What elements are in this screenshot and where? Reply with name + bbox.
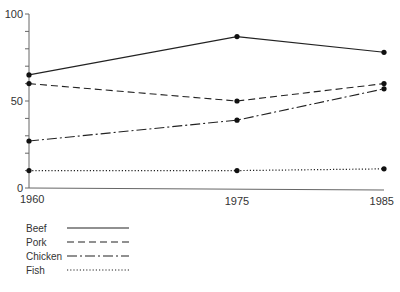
y-tick-label: 100	[5, 8, 23, 20]
legend-label-chicken: Chicken	[26, 251, 62, 262]
data-point	[26, 138, 31, 143]
legend-label-fish: Fish	[26, 265, 45, 276]
data-point	[234, 34, 239, 39]
legend-label-pork: Pork	[26, 237, 48, 248]
x-axis	[29, 188, 384, 190]
y-tick-label: 50	[11, 95, 23, 107]
data-point	[26, 81, 31, 86]
x-tick-label: 1960	[20, 193, 44, 205]
series-line-pork	[29, 84, 384, 101]
series-line-fish	[29, 169, 384, 171]
data-point	[26, 72, 31, 77]
data-point	[381, 86, 386, 91]
x-tick-label: 1975	[225, 195, 249, 207]
data-point	[381, 50, 386, 55]
line-chart: 050100196019751985BeefPorkChickenFish	[0, 0, 400, 292]
legend-label-beef: Beef	[26, 223, 47, 234]
data-point	[381, 81, 386, 86]
series-line-beef	[29, 37, 384, 75]
data-point	[26, 168, 31, 173]
data-point	[381, 166, 386, 171]
series-line-chicken	[29, 89, 384, 141]
data-point	[234, 98, 239, 103]
x-tick-label: 1985	[370, 195, 394, 207]
data-point	[234, 118, 239, 123]
data-point	[234, 168, 239, 173]
